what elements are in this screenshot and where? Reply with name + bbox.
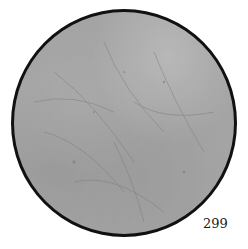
texture-streaks <box>14 12 234 234</box>
figure-number: 299 <box>203 216 228 231</box>
circular-specimen-image <box>11 9 237 237</box>
